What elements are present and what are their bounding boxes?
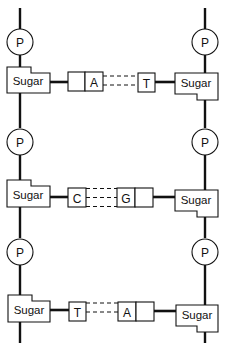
base-label: G — [121, 192, 130, 206]
base-label: T — [143, 77, 151, 91]
sugar-label: Sugar — [181, 77, 212, 89]
base-label: A — [123, 306, 131, 320]
right-phosphate-3: P — [192, 239, 218, 265]
right-sugar-1: Sugar — [175, 73, 218, 100]
base-left-stub — [68, 72, 85, 91]
left-sugar-3: Sugar — [8, 295, 50, 322]
base-label: T — [74, 306, 82, 320]
left-phosphate-3: P — [7, 239, 33, 265]
sugar-label: Sugar — [13, 189, 44, 201]
left-phosphate-2: P — [7, 129, 33, 155]
sugar-label: Sugar — [181, 194, 212, 206]
base-label: A — [90, 76, 98, 90]
base-pair-3: T A — [50, 302, 176, 321]
left-sugar-2: Sugar — [7, 180, 50, 207]
sugar-label: Sugar — [14, 304, 45, 316]
phosphate-label: P — [201, 136, 209, 150]
phosphate-label: P — [201, 246, 209, 260]
base-right-stub — [136, 302, 154, 321]
phosphate-label: P — [16, 36, 24, 50]
right-phosphate-1: P — [192, 29, 218, 55]
base-pair-2: C G — [50, 188, 175, 207]
base-pair-1: A T — [50, 72, 175, 92]
phosphate-label: P — [16, 136, 24, 150]
phosphate-label: P — [16, 246, 24, 260]
right-phosphate-2: P — [192, 129, 218, 155]
phosphate-label: P — [201, 36, 209, 50]
sugar-label: Sugar — [13, 75, 44, 87]
sugar-label: Sugar — [182, 309, 213, 321]
right-sugar-3: Sugar — [176, 305, 218, 332]
dna-ladder-diagram: P P P P P P Sugar Sugar Sugar Sugar Su — [0, 0, 225, 349]
base-right-stub — [135, 188, 153, 207]
base-label: C — [73, 192, 82, 206]
right-sugar-2: Sugar — [175, 190, 218, 217]
left-phosphate-1: P — [7, 29, 33, 55]
left-sugar-1: Sugar — [7, 67, 50, 93]
